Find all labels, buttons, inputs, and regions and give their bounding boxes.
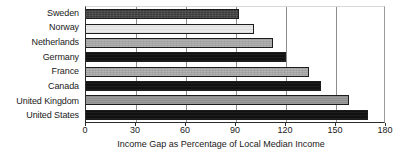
bar-row [86, 108, 384, 122]
bar-netherlands[interactable] [86, 38, 273, 48]
x-tick-label-90: 90 [230, 126, 240, 135]
bar-canada[interactable] [86, 81, 321, 91]
bar-row [86, 50, 384, 64]
bar-row [86, 93, 384, 107]
bar-row [86, 65, 384, 79]
bar-sweden[interactable] [86, 9, 239, 19]
category-label-canada: Canada [0, 79, 82, 94]
category-label-sweden: Sweden [0, 6, 82, 21]
x-tick-label-180: 180 [377, 126, 392, 135]
bar-row [86, 7, 384, 21]
x-tick-label-120: 120 [277, 126, 292, 135]
value-axis: 0306090120150180 [85, 123, 385, 137]
category-label-united-states: United States [0, 108, 82, 123]
bar-germany[interactable] [86, 52, 286, 62]
bar-row [86, 21, 384, 35]
bar-norway[interactable] [86, 24, 254, 34]
category-axis: Sweden Norway Netherlands Germany France… [0, 6, 82, 123]
x-axis-title: Income Gap as Percentage of Local Median… [0, 140, 414, 149]
bar-united-kingdom[interactable] [86, 95, 349, 105]
bar-row [86, 79, 384, 93]
x-tick-label-60: 60 [180, 126, 190, 135]
bar-united-states[interactable] [86, 110, 368, 120]
category-label-norway: Norway [0, 21, 82, 36]
bar-chart: Sweden Norway Netherlands Germany France… [0, 0, 414, 163]
category-label-germany: Germany [0, 50, 82, 65]
plot-area [85, 6, 385, 123]
category-label-france: France [0, 65, 82, 80]
x-tick-label-30: 30 [130, 126, 140, 135]
category-label-netherlands: Netherlands [0, 35, 82, 50]
bar-series [86, 7, 384, 122]
x-tick-label-0: 0 [82, 126, 87, 135]
x-tick-label-150: 150 [327, 126, 342, 135]
category-label-united-kingdom: United Kingdom [0, 94, 82, 109]
bar-row [86, 36, 384, 50]
bar-france[interactable] [86, 67, 309, 77]
